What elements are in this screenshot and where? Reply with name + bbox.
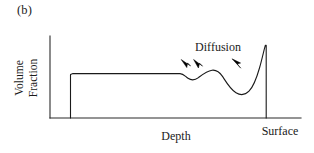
volume-fraction-curve <box>71 45 267 118</box>
diffusion-annotation-label: Diffusion <box>182 40 254 54</box>
x-axis-surface-label: Surface <box>248 124 312 138</box>
diffusion-arrow-2-icon <box>194 60 203 69</box>
diffusion-arrow-3-icon <box>232 59 241 68</box>
x-axis-label: Depth <box>120 129 232 143</box>
figure-panel-b: (b) Volume Fraction Diffusion Depth Surf… <box>0 0 314 153</box>
diffusion-arrow-1-icon <box>181 60 190 68</box>
